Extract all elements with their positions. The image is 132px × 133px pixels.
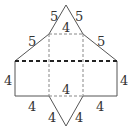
net-svg: 5 5 4 5 5 4 4 4 4 4 4 4 <box>0 0 132 133</box>
label-right-side: 4 <box>120 73 128 88</box>
label-left-side: 4 <box>4 73 12 88</box>
label-lower-tri-left: 4 <box>48 110 56 125</box>
label-top-left-upper: 5 <box>50 9 58 24</box>
label-bottom-right: 4 <box>96 99 104 114</box>
label-bottom-left: 4 <box>28 99 36 114</box>
label-left-slant: 5 <box>28 34 36 49</box>
prism-net-diagram: 5 5 4 5 5 4 4 4 4 4 4 4 <box>0 0 132 133</box>
label-center-bottom: 4 <box>62 82 70 97</box>
label-top-right-upper: 5 <box>75 9 83 24</box>
label-top-inner: 4 <box>62 20 70 35</box>
label-right-slant: 5 <box>97 34 105 49</box>
label-lower-tri-right: 4 <box>75 110 83 125</box>
